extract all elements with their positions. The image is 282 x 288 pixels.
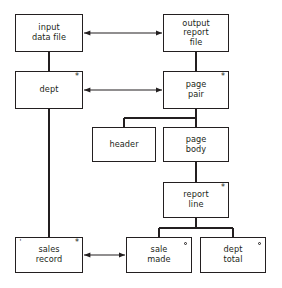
node-report-line[interactable]: report line * [163,182,229,218]
node-label-header: header [109,140,138,150]
node-label-input-data-file: input data file [32,23,66,42]
node-input-data-file[interactable]: input data file [15,14,83,52]
node-label-dept-total: dept total [224,245,243,264]
structure-diagram: input data file output report file dept … [0,0,282,288]
node-page-body[interactable]: page body [163,127,229,162]
node-label-report-line: report line [183,190,208,209]
node-label-output-report-file: output report file [182,19,209,48]
node-page-pair[interactable]: page pair * [163,71,229,109]
node-label-page-pair: page pair [186,80,207,99]
node-header[interactable]: header [92,127,156,162]
node-output-report-file[interactable]: output report file [163,14,229,52]
node-sales-record[interactable]: sales record * ' [15,237,83,273]
selection-circle-icon [258,242,261,245]
node-dept-total[interactable]: dept total [200,237,266,273]
tick-mark-icon: ' [20,239,22,246]
node-dept[interactable]: dept * [15,71,83,109]
iteration-star-icon: * [221,73,225,81]
iteration-star-icon: * [221,184,225,192]
iteration-star-icon: * [75,239,79,247]
selection-circle-icon [184,242,187,245]
node-label-sale-made: sale made [147,245,170,264]
node-label-page-body: page body [186,135,207,154]
node-label-sales-record: sales record [36,245,62,264]
node-sale-made[interactable]: sale made [126,237,192,273]
iteration-star-icon: * [75,73,79,81]
node-label-dept: dept [40,85,59,95]
